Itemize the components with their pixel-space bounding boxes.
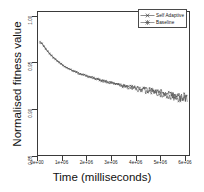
legend-label-baseline: Baseline — [155, 20, 174, 25]
x-tick-label: 6e+06 — [168, 160, 202, 165]
y-axis-title: Normalised fitness value — [11, 9, 23, 159]
y-tick-label: 1.00 — [28, 15, 33, 45]
legend-label-self-adaptive: Self Adaptive — [155, 13, 184, 18]
y-tick-label: 0.95 — [28, 62, 33, 92]
legend-symbol-self-adaptive — [140, 12, 155, 19]
y-tick-label: 0.90 — [28, 109, 33, 139]
series-markers-self-adaptive — [39, 41, 187, 101]
series-line-self-adaptive — [40, 42, 187, 101]
y-tick — [32, 16, 37, 17]
series-line-baseline — [40, 43, 187, 102]
plot-svg — [38, 12, 191, 157]
legend-item-self-adaptive: Self Adaptive — [140, 12, 184, 19]
chart-figure: 0.850.900.951.00 0e+001e+062e+063e+064e+… — [0, 0, 204, 192]
chart-legend: Self Adaptive Baseline — [138, 9, 187, 28]
y-tick — [32, 109, 37, 110]
plot-area — [37, 11, 190, 156]
y-tick — [32, 62, 37, 63]
legend-item-baseline: Baseline — [140, 19, 184, 26]
x-axis-title: Time (milliseconds) — [0, 171, 204, 183]
series-layer — [39, 41, 187, 103]
legend-symbol-baseline — [140, 19, 155, 26]
